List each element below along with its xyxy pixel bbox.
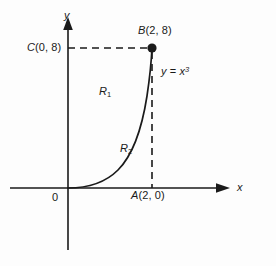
x-axis: [10, 183, 230, 193]
x-axis-arrowhead: [216, 183, 230, 193]
equation-exponent: 3: [185, 65, 189, 74]
region-r2-subscript: 2: [128, 147, 132, 156]
region-r1-letter: R: [99, 85, 107, 97]
equation-operator: =: [167, 65, 180, 77]
region-r1-subscript: 1: [107, 90, 111, 99]
point-c-coords: (0, 8): [35, 41, 61, 53]
region-r1-label: R1: [99, 86, 111, 98]
point-a-label: A(2, 0): [131, 190, 165, 201]
coordinate-plane-graphic: [0, 0, 276, 266]
point-b-marker: [147, 43, 156, 52]
point-b-label: B(2, 8): [138, 25, 172, 36]
point-a-coords: (2, 0): [138, 189, 164, 201]
y-axis-label: y: [64, 10, 70, 21]
region-r2-label: R2: [120, 143, 132, 155]
point-b-coords: (2, 8): [145, 24, 171, 36]
x-axis-label: x: [237, 182, 243, 193]
point-c-letter: C: [27, 41, 35, 53]
cubic-curve: [68, 48, 152, 188]
curve-equation-label: y = x3: [161, 66, 189, 77]
y-axis: [63, 17, 73, 250]
origin-label: 0: [52, 192, 58, 203]
point-c-label: C(0, 8): [27, 42, 61, 53]
region-r2-letter: R: [120, 142, 128, 154]
figure-container: y x 0 C(0, 8) B(2, 8) A(2, 0) R1 R2 y = …: [0, 0, 276, 266]
